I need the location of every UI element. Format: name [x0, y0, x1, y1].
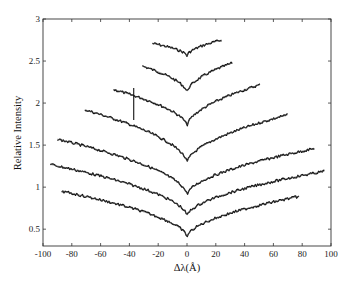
x-axis-label: Δλ(Å)	[174, 262, 201, 274]
x-tick-label: 100	[324, 249, 338, 259]
y-tick-label: 1.5	[29, 140, 41, 150]
curve-1-data	[152, 40, 221, 56]
x-tick-label: 0	[185, 249, 190, 259]
curve-2-data	[142, 62, 232, 90]
curve-7-data	[62, 191, 299, 237]
x-tick-label: -80	[66, 249, 78, 259]
plot-frame	[43, 19, 331, 246]
y-axis-ticks: 0.511.522.53	[29, 14, 331, 234]
x-tick-label: 40	[240, 249, 250, 259]
x-tick-label: -60	[95, 249, 107, 259]
x-tick-label: 20	[211, 249, 221, 259]
x-tick-label: -20	[152, 249, 164, 259]
curve-2-fit	[142, 63, 232, 91]
x-tick-label: 60	[269, 249, 279, 259]
y-tick-label: 2.5	[29, 56, 41, 66]
curve-7-fit	[62, 191, 299, 236]
data-curves	[50, 40, 324, 237]
y-axis-label: Relative Intensity	[12, 95, 23, 170]
x-tick-label: -100	[35, 249, 52, 259]
curve-6-fit	[50, 164, 324, 215]
y-tick-label: 3	[36, 14, 41, 24]
curve-5-fit	[57, 139, 314, 193]
y-tick-label: 2	[36, 98, 41, 108]
y-tick-label: 1	[36, 182, 41, 192]
curve-6-data	[50, 164, 324, 214]
curve-5-data	[57, 139, 314, 194]
x-tick-label: 80	[298, 249, 308, 259]
chart: -100-80-60-40-20020406080100 0.511.522.5…	[0, 0, 351, 284]
y-tick-label: 0.5	[29, 224, 41, 234]
x-tick-label: -40	[123, 249, 135, 259]
